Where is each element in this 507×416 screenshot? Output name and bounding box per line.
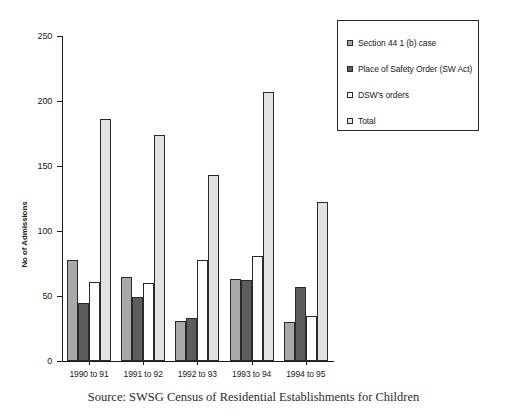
x-tick-mark [197, 361, 198, 365]
bar [100, 119, 111, 361]
y-tick-label: 150 [12, 162, 52, 171]
bar-group [121, 36, 165, 361]
bar-group [230, 36, 274, 361]
bar [230, 279, 241, 361]
legend-swatch-icon [347, 92, 353, 98]
x-tick-mark [306, 361, 307, 365]
bar [284, 322, 295, 361]
y-axis-title: No of Admissions [20, 180, 29, 290]
bar [186, 318, 197, 361]
bar [263, 92, 274, 361]
bar [143, 283, 154, 361]
y-tick-mark [57, 101, 62, 102]
bar-group [284, 36, 328, 361]
y-tick-label: 100 [12, 227, 52, 236]
y-tick-label: 0 [12, 357, 52, 366]
legend-label: Section 44 1 (b) case [358, 38, 436, 48]
x-tick-mark [89, 361, 90, 365]
y-tick-mark [57, 166, 62, 167]
legend-swatch-icon [347, 40, 353, 46]
y-tick-label: 250 [12, 32, 52, 41]
x-tick-label: 1994 to 95 [266, 369, 346, 379]
legend-label: Place of Safety Order (SW Act) [358, 64, 472, 74]
legend-label: DSW's orders [358, 90, 409, 100]
chart-caption: Source: SWSG Census of Residential Estab… [0, 390, 507, 405]
y-tick-mark [57, 231, 62, 232]
y-tick-mark [57, 361, 62, 362]
bar [306, 316, 317, 362]
bar-group [67, 36, 111, 361]
bar [241, 280, 252, 361]
legend-swatch-icon [347, 66, 353, 72]
bar [67, 260, 78, 361]
legend-item[interactable]: Place of Safety Order (SW Act) [347, 56, 478, 82]
legend-item[interactable]: Section 44 1 (b) case [347, 30, 478, 56]
bar [295, 287, 306, 361]
y-tick-label: 200 [12, 97, 52, 106]
x-tick-mark [143, 361, 144, 365]
legend-swatch-icon [347, 118, 353, 124]
bar [197, 260, 208, 361]
bar-group [175, 36, 219, 361]
y-tick-label: 50 [12, 292, 52, 301]
bar [317, 202, 328, 361]
bar [208, 175, 219, 361]
bar [154, 135, 165, 361]
chart-legend: Section 44 1 (b) casePlace of Safety Ord… [337, 20, 479, 131]
y-tick-mark [57, 296, 62, 297]
bar [121, 277, 132, 362]
legend-item[interactable]: DSW's orders [347, 82, 478, 108]
legend-item[interactable]: Total [347, 108, 478, 134]
x-tick-mark [252, 361, 253, 365]
bar-chart: 050100150200250 No of Admissions 1990 to… [0, 0, 507, 416]
plot-bar-groups [63, 36, 334, 361]
bar [78, 303, 89, 362]
bar [132, 297, 143, 361]
bar [252, 256, 263, 361]
legend-label: Total [358, 116, 375, 126]
y-tick-mark [57, 36, 62, 37]
bar [175, 321, 186, 361]
bar [89, 282, 100, 361]
